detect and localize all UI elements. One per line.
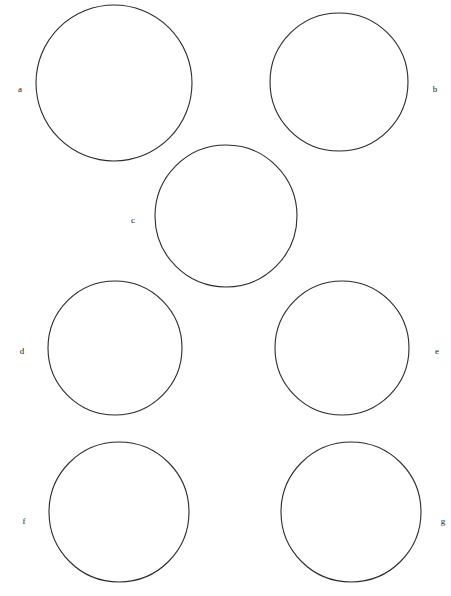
panel-label-a: a	[14, 85, 26, 94]
disc-outline	[281, 442, 421, 582]
micrograph-panel-d	[44, 277, 186, 419]
disc-outline	[48, 281, 182, 415]
micrograph-panel-f	[45, 438, 193, 586]
disc-outline	[49, 442, 189, 582]
disc-outline	[270, 13, 408, 151]
panel-label-b: b	[429, 85, 441, 94]
micrograph-panel-g	[277, 438, 425, 586]
disc-outline	[36, 5, 192, 161]
panel-label-c: c	[127, 216, 139, 225]
micrograph-panel-e	[271, 277, 413, 419]
micrograph-panel-c	[151, 141, 301, 291]
micrograph-panel-b	[266, 9, 412, 155]
panel-label-f: f	[18, 517, 30, 526]
disc-outline	[155, 145, 297, 287]
figure-plate: abcdefg	[0, 0, 451, 596]
panel-label-d: d	[16, 347, 28, 356]
panel-label-e: e	[431, 347, 443, 356]
panel-label-g: g	[437, 517, 449, 526]
disc-outline	[275, 281, 409, 415]
